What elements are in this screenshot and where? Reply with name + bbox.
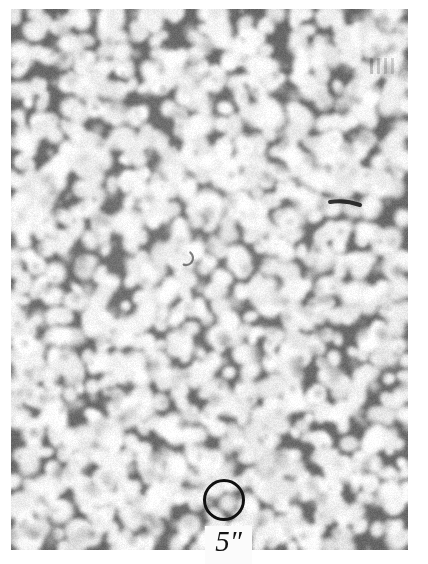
scale-label-text: 5″ <box>215 527 242 556</box>
scale-label-box: 5″ <box>205 526 252 564</box>
granulation-texture <box>11 9 408 550</box>
granulation-photograph <box>11 9 408 550</box>
scale-reference-circle <box>203 479 245 521</box>
figure-plate: 5″ <box>0 0 428 564</box>
